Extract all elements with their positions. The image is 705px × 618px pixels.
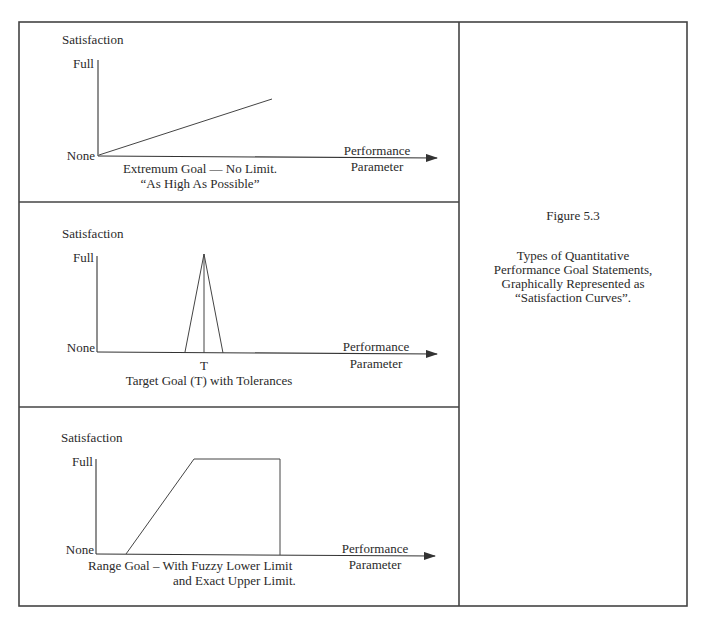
outer-border (19, 22, 687, 606)
panel-caption-line1: Extremum Goal — No Limit. (123, 161, 277, 176)
panel-caption-line1: Range Goal – With Fuzzy Lower Limit (88, 558, 293, 573)
satisfaction-curve-extremum (99, 99, 272, 155)
panel-caption-line2: “As High As Possible” (141, 176, 260, 191)
y-tick-full: Full (72, 454, 93, 469)
panel-caption-line2: and Exact Upper Limit. (173, 573, 296, 588)
panel-range-goal: Satisfaction Full None Performance Param… (61, 430, 435, 588)
y-axis-title: Satisfaction (62, 226, 124, 241)
figure-number: Figure 5.3 (546, 208, 599, 223)
figure-frame (19, 22, 687, 606)
y-tick-none: None (66, 542, 94, 557)
x-axis-title-line2: Parameter (351, 159, 404, 174)
figure-caption-line4: “Satisfaction Curves”. (515, 290, 631, 305)
satisfaction-curve-range (126, 459, 280, 555)
target-marker-label: T (200, 358, 208, 373)
figure-caption-panel: Figure 5.3 Types of Quantitative Perform… (494, 208, 652, 305)
x-axis-title-line2: Parameter (349, 557, 402, 572)
y-axis-title: Satisfaction (62, 32, 124, 47)
figure-caption-line2: Performance Goal Statements, (494, 262, 652, 277)
figure-caption-line1: Types of Quantitative (517, 248, 630, 263)
x-axis-title-line1: Performance (344, 143, 411, 158)
panel-target-goal: Satisfaction Full None T Target Goal (T)… (62, 226, 437, 388)
x-axis-title-line2: Parameter (350, 356, 403, 371)
y-tick-none: None (67, 148, 95, 163)
y-tick-full: Full (73, 56, 94, 71)
y-tick-none: None (67, 340, 95, 355)
y-axis-title: Satisfaction (61, 430, 123, 445)
x-axis-title-line1: Performance (342, 541, 409, 556)
y-tick-full: Full (73, 250, 94, 265)
figure-caption-line3: Graphically Represented as (502, 276, 645, 291)
panel-caption-line1: Target Goal (T) with Tolerances (126, 373, 293, 388)
figure-canvas: Satisfaction Full None Performance Param… (0, 0, 705, 618)
panel-extremum-goal: Satisfaction Full None Performance Param… (62, 32, 437, 191)
x-axis-title-line1: Performance (343, 339, 410, 354)
